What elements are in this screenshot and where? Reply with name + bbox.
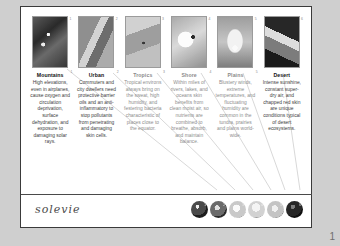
product-dot-label: 5	[280, 203, 282, 207]
product-dot-label: 2	[223, 203, 225, 207]
column-body: Blustery winds, extreme temperatures, an…	[215, 80, 255, 139]
column-urban: 2 2 Urban Commuters and city dwellers ne…	[73, 13, 119, 199]
callout-marker-heading: 3	[163, 70, 165, 74]
scan-margin-right	[312, 0, 340, 246]
callout-marker-top: 6	[301, 17, 303, 21]
callout-marker-heading: 1	[70, 70, 72, 74]
environment-columns: 1 1 Mountains High elevations, even in a…	[27, 13, 305, 199]
desert-photo	[264, 16, 300, 68]
column-heading: Urban	[89, 72, 105, 79]
product-dot[interactable]: 3	[229, 201, 246, 218]
column-heading: Mountains	[37, 72, 64, 79]
callout-marker-heading: 2	[117, 70, 119, 74]
plains-photo	[217, 16, 253, 68]
column-heading: Shore	[182, 72, 197, 79]
mountains-photo	[32, 16, 68, 68]
product-dot[interactable]: 2	[210, 201, 227, 218]
product-dot[interactable]: 4	[248, 201, 265, 218]
callout-marker-heading: 5	[256, 70, 258, 74]
callout-marker-heading: 4	[209, 70, 211, 74]
column-mountains: 1 1 Mountains High elevations, even in a…	[27, 13, 73, 199]
product-dot-label: 1	[204, 203, 206, 207]
tropics-photo	[125, 16, 161, 68]
product-dot-label: 3	[242, 203, 244, 207]
column-heading: Desert	[273, 72, 290, 79]
product-dot-label: 6	[299, 203, 301, 207]
column-body: High elevations, even in airplanes, caus…	[30, 80, 70, 146]
column-body: Within miles of rivers, lakes, and ocean…	[169, 80, 209, 146]
product-dot[interactable]: 1	[191, 201, 208, 218]
callout-marker-top: 1	[69, 17, 71, 21]
callout-marker-top: 3	[162, 17, 164, 21]
product-dot-label: 4	[261, 203, 263, 207]
page-footer: solevie 1 2 3 4 5 6	[21, 194, 313, 227]
product-dot[interactable]: 5	[267, 201, 284, 218]
column-body: Commuters and city dwellers need protect…	[76, 80, 116, 139]
callout-marker-top: 5	[255, 17, 257, 21]
column-heading: Plains	[228, 72, 244, 79]
column-body: Intense sunshine, constant super-dry air…	[262, 80, 302, 133]
column-desert: 6 Desert Intense sunshine, constant supe…	[259, 13, 305, 199]
page-number: 1	[329, 231, 335, 242]
brand-logo: solevie	[35, 203, 81, 216]
product-dot[interactable]: 6	[286, 201, 303, 218]
shore-photo	[171, 16, 207, 68]
product-thumbnail-row: 1 2 3 4 5 6	[191, 201, 303, 218]
callout-marker-top: 2	[116, 17, 118, 21]
callout-marker-top: 4	[208, 17, 210, 21]
scan-canvas: 1 1 Mountains High elevations, even in a…	[0, 0, 340, 246]
document-page: 1 1 Mountains High elevations, even in a…	[20, 6, 312, 228]
column-shore: 4 4 Shore Within miles of rivers, lakes,…	[166, 13, 212, 199]
column-heading: Tropics	[133, 72, 152, 79]
scan-margin-left	[0, 0, 20, 246]
column-tropics: 3 3 Tropics Tropical environs always bri…	[120, 13, 166, 199]
column-body: Tropical environs always bring on the sw…	[123, 80, 163, 133]
urban-photo	[78, 16, 114, 68]
column-plains: 5 5 Plains Blustery winds, extreme tempe…	[212, 13, 258, 199]
